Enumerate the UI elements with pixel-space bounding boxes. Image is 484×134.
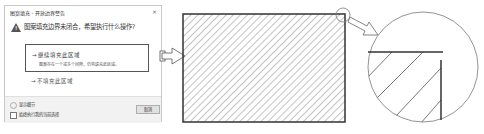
zoomed-detail-circle xyxy=(365,12,478,124)
zoom-arrow-icon xyxy=(348,17,378,35)
hatch-illustration xyxy=(0,0,484,134)
hatched-rectangle xyxy=(183,14,345,122)
callout-arrow-icon xyxy=(160,48,185,64)
